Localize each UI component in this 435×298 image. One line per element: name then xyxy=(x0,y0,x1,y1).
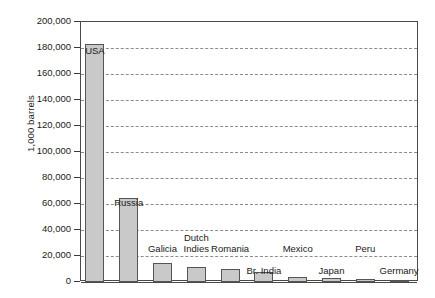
bar-peru xyxy=(356,279,375,282)
bar-label: Russia xyxy=(99,197,159,208)
gridline xyxy=(81,126,417,127)
gridline xyxy=(81,178,417,179)
bar-label: Romania xyxy=(200,243,260,254)
bar-mexico xyxy=(288,277,307,282)
bar-russia xyxy=(119,198,138,283)
bar-label: Br. India xyxy=(234,265,294,276)
gridline xyxy=(81,152,417,153)
bar-label-line: Mexico xyxy=(268,243,328,254)
bar-label-line: Peru xyxy=(335,243,395,254)
gridline xyxy=(81,48,417,49)
gridline xyxy=(81,282,417,283)
bar-label: Peru xyxy=(335,243,395,254)
bar-label-line: Br. India xyxy=(234,265,294,276)
bar-usa xyxy=(85,44,104,282)
y-tick-label: 80,000 xyxy=(0,172,71,182)
bar-chart: 1,000 barrels 200,000180,000160,000140,0… xyxy=(0,0,435,298)
gridline xyxy=(81,100,417,101)
y-tick-label: 0 xyxy=(0,276,71,286)
y-tick-label: 100,000 xyxy=(0,146,71,156)
bar-label-line: Romania xyxy=(200,243,260,254)
y-tick-label: 60,000 xyxy=(0,198,71,208)
plot-area: USARussiaGaliciaDutchIndiesRomaniaBr. In… xyxy=(80,21,418,281)
bar-label-line: USA xyxy=(65,45,125,56)
bar-germany xyxy=(390,280,409,282)
gridline xyxy=(81,74,417,75)
y-tick-label: 40,000 xyxy=(0,224,71,234)
bar-japan xyxy=(322,278,341,282)
bar-galicia xyxy=(153,263,172,283)
bar-label: Japan xyxy=(302,265,362,276)
y-tick-label: 160,000 xyxy=(0,68,71,78)
y-tick-label: 180,000 xyxy=(0,42,71,52)
y-tick-label: 140,000 xyxy=(0,94,71,104)
y-tick-label: 120,000 xyxy=(0,120,71,130)
bar-label-line: Germany xyxy=(369,265,429,276)
bar-label-line: Russia xyxy=(99,197,159,208)
y-tick-label: 200,000 xyxy=(0,16,71,26)
bar-label: Germany xyxy=(369,265,429,276)
y-tick-label: 20,000 xyxy=(0,250,71,260)
bar-dutch-indies xyxy=(187,267,206,282)
y-tick-mark xyxy=(74,281,80,282)
bar-label: Mexico xyxy=(268,243,328,254)
bar-label-line: Japan xyxy=(302,265,362,276)
bar-label-line: Dutch xyxy=(166,232,226,243)
bar-label: USA xyxy=(65,45,125,56)
